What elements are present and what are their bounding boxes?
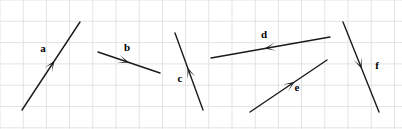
vector-arrows-layer (22, 22, 379, 112)
vector-label-e: e (295, 81, 300, 93)
vector-label-c: c (178, 72, 183, 84)
vector-label-f: f (375, 59, 379, 71)
vector-line-e (250, 60, 327, 112)
background-grid (0, 0, 402, 129)
vector-diagram-figure: abcdef (0, 0, 402, 129)
vector-line-a (22, 22, 80, 110)
arrowhead-e (283, 82, 294, 92)
diagram-canvas: abcdef (0, 0, 402, 129)
vector-label-d: d (261, 28, 267, 40)
vector-label-b: b (124, 41, 130, 53)
vector-label-a: a (40, 42, 46, 54)
vector-line-d (211, 37, 330, 58)
